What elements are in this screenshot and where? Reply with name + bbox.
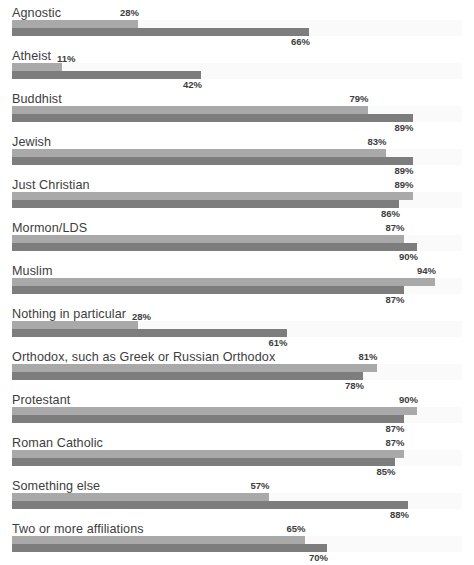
category-label: Agnostic xyxy=(12,6,61,21)
bar-track-lower xyxy=(12,544,462,552)
chart-row: Nothing in particular28%61% xyxy=(0,307,474,350)
chart-row: Orthodox, such as Greek or Russian Ortho… xyxy=(0,350,474,393)
bar-series-2 xyxy=(12,415,404,423)
value-label-series-1: 89% xyxy=(394,179,413,190)
value-label-series-2: 85% xyxy=(376,466,395,477)
value-label-series-2: 89% xyxy=(394,122,413,133)
bar-track-lower xyxy=(12,157,462,165)
bar-track-upper xyxy=(12,63,462,71)
bar-track-lower xyxy=(12,71,462,79)
value-label-series-1: 79% xyxy=(349,93,368,104)
value-label-series-2: 88% xyxy=(390,509,409,520)
bar-track-upper xyxy=(12,493,462,501)
value-label-series-2: 90% xyxy=(399,251,418,262)
category-label: Roman Catholic xyxy=(12,436,103,451)
bar-series-2 xyxy=(12,501,408,509)
bar-series-1 xyxy=(12,192,413,200)
bar-series-1 xyxy=(12,536,305,544)
chart-row: Roman Catholic87%85% xyxy=(0,436,474,479)
bar-track-upper xyxy=(12,149,462,157)
bar-series-1 xyxy=(12,149,386,157)
bar-track-upper xyxy=(12,407,462,415)
category-label: Just Christian xyxy=(12,178,90,193)
bar-series-1 xyxy=(12,235,404,243)
bar-series-2 xyxy=(12,329,287,337)
value-label-series-2: 87% xyxy=(385,294,404,305)
value-label-series-1: 11% xyxy=(57,53,76,64)
bar-series-1 xyxy=(12,20,138,28)
bar-series-1 xyxy=(12,278,435,286)
value-label-series-1: 90% xyxy=(399,394,418,405)
chart-row: Muslim94%87% xyxy=(0,264,474,307)
chart-row: Buddhist79%89% xyxy=(0,92,474,135)
bar-track-lower xyxy=(12,28,462,36)
value-label-series-2: 89% xyxy=(394,165,413,176)
category-label: Something else xyxy=(12,479,100,494)
bar-track-upper xyxy=(12,321,462,329)
chart-row: Agnostic28%66% xyxy=(0,6,474,49)
bar-series-2 xyxy=(12,458,395,466)
category-label: Atheist xyxy=(12,49,51,64)
category-label: Protestant xyxy=(12,393,70,408)
value-label-series-2: 42% xyxy=(183,79,202,90)
value-label-series-1: 87% xyxy=(385,437,404,448)
chart-row: Just Christian89%86% xyxy=(0,178,474,221)
bar-track-upper xyxy=(12,450,462,458)
category-label: Orthodox, such as Greek or Russian Ortho… xyxy=(12,350,275,365)
bar-series-1 xyxy=(12,364,377,372)
bar-track-upper xyxy=(12,235,462,243)
bar-track-lower xyxy=(12,286,462,294)
value-label-series-1: 94% xyxy=(417,265,436,276)
bar-track-upper xyxy=(12,20,462,28)
bar-track-lower xyxy=(12,243,462,251)
chart-row: Jewish83%89% xyxy=(0,135,474,178)
bar-series-1 xyxy=(12,106,368,114)
bar-track-upper xyxy=(12,536,462,544)
bar-track-lower xyxy=(12,329,462,337)
bar-series-2 xyxy=(12,114,413,122)
value-label-series-2: 70% xyxy=(309,552,328,563)
bar-series-1 xyxy=(12,450,404,458)
value-label-series-1: 83% xyxy=(367,136,386,147)
category-label: Buddhist xyxy=(12,92,62,107)
chart-rows: Agnostic28%66%Atheist11%42%Buddhist79%89… xyxy=(0,6,474,565)
value-label-series-1: 65% xyxy=(286,523,305,534)
bar-track-upper xyxy=(12,278,462,286)
category-label: Two or more affiliations xyxy=(12,522,144,537)
bar-series-1 xyxy=(12,63,62,71)
value-label-series-2: 66% xyxy=(291,36,310,47)
value-label-series-2: 87% xyxy=(385,423,404,434)
value-label-series-1: 28% xyxy=(132,311,151,322)
bar-series-2 xyxy=(12,200,399,208)
bar-series-2 xyxy=(12,28,309,36)
value-label-series-2: 86% xyxy=(381,208,400,219)
bar-series-2 xyxy=(12,544,327,552)
bar-series-2 xyxy=(12,157,413,165)
chart-row: Two or more affiliations65%70% xyxy=(0,522,474,565)
category-label: Nothing in particular xyxy=(12,307,126,322)
value-label-series-1: 28% xyxy=(120,7,139,18)
bar-track-upper xyxy=(12,106,462,114)
bar-series-1 xyxy=(12,407,417,415)
chart-row: Protestant90%87% xyxy=(0,393,474,436)
bar-track-upper xyxy=(12,192,462,200)
bar-track-upper xyxy=(12,364,462,372)
bar-track-lower xyxy=(12,114,462,122)
bar-series-2 xyxy=(12,71,201,79)
chart-row: Something else57%88% xyxy=(0,479,474,522)
bar-track-lower xyxy=(12,501,462,509)
chart-row: Atheist11%42% xyxy=(0,49,474,92)
bar-series-2 xyxy=(12,286,404,294)
category-label: Jewish xyxy=(12,135,51,150)
bar-track-lower xyxy=(12,458,462,466)
bar-series-2 xyxy=(12,372,363,380)
value-label-series-1: 87% xyxy=(385,222,404,233)
value-label-series-2: 78% xyxy=(345,380,364,391)
chart-row: Mormon/LDS87%90% xyxy=(0,221,474,264)
bar-series-1 xyxy=(12,321,138,329)
bar-track-lower xyxy=(12,415,462,423)
value-label-series-1: 57% xyxy=(250,480,269,491)
bar-track-lower xyxy=(12,200,462,208)
value-label-series-1: 81% xyxy=(358,351,377,362)
